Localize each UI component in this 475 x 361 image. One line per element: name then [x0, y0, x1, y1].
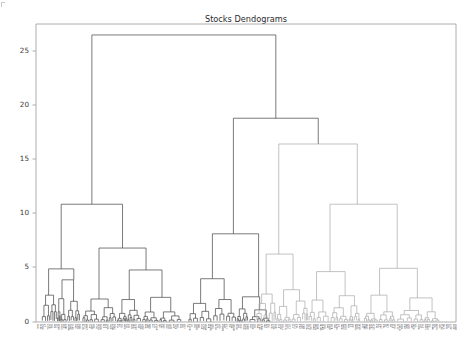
- dendrogram-link: [303, 313, 305, 320]
- dendrogram-link: [92, 35, 276, 204]
- leaf-label: AMYR: [436, 324, 438, 330]
- dendrogram-link: [219, 300, 231, 314]
- dendrogram-link: [381, 315, 386, 320]
- dendrogram-link: [52, 305, 55, 312]
- dendrogram-link: [86, 320, 88, 322]
- dendrogram-link: [333, 313, 337, 318]
- dendrogram-link: [288, 319, 290, 322]
- leaf-label: PWP: [411, 324, 413, 329]
- leaf-label: XLMI: [287, 324, 289, 329]
- dendrogram-link: [44, 305, 49, 316]
- leaf-label: ZFBD: [329, 324, 331, 330]
- y-axis-tick-labels: 0 5 10 15 20 25: [20, 46, 30, 326]
- dendrogram-link: [237, 319, 238, 322]
- dendrogram-link: [358, 319, 360, 321]
- dendrogram-link: [60, 316, 61, 321]
- leaf-label: XBKR: [142, 324, 144, 330]
- leaf-label: PBA: [257, 324, 259, 329]
- dendrogram-link: [49, 269, 74, 295]
- leaf-label: HMW: [201, 324, 203, 329]
- dendrogram-link: [194, 318, 198, 321]
- dendrogram-link: [319, 312, 326, 318]
- dendrogram-link: [266, 254, 293, 294]
- dendrogram-link: [71, 301, 78, 311]
- dendrogram-link: [379, 319, 382, 321]
- leaf-label: POG: [36, 324, 39, 329]
- leaf-label: KFV: [121, 324, 123, 329]
- dendrogram-link: [355, 313, 358, 319]
- dendrogram-link: [351, 306, 357, 317]
- dendrogram-link: [99, 248, 146, 299]
- dendrogram-link: [143, 319, 145, 321]
- dendrogram-link: [86, 311, 95, 316]
- dendrogram-link: [306, 314, 307, 321]
- dendrogram-link: [64, 320, 66, 322]
- dendrogram-link: [61, 319, 62, 321]
- dendrogram-link: [160, 320, 162, 322]
- dendrogram-link: [334, 308, 343, 316]
- leaf-label: ZKE: [392, 324, 394, 329]
- dendrogram-link: [214, 316, 217, 321]
- dendrogram-links: [42, 35, 439, 322]
- dendrogram-link: [292, 319, 295, 321]
- leaf-label: ZWZ: [404, 324, 406, 329]
- leaf-label: NIN: [378, 324, 380, 328]
- dendrogram-link: [246, 317, 248, 321]
- leaf-label: YZMZ: [135, 324, 137, 330]
- dendrogram-link: [354, 317, 356, 321]
- dendrogram-link: [274, 312, 276, 321]
- dendrogram-link: [269, 313, 272, 321]
- leaf-label: IYME: [175, 324, 177, 330]
- leaf-label: HIH: [191, 324, 193, 328]
- leaf-label: FDYN: [401, 324, 403, 330]
- dendrogram-link: [271, 303, 275, 313]
- leaf-label: EPD: [54, 324, 56, 329]
- dendrogram-link: [313, 319, 315, 321]
- dendrogram-link: [68, 316, 70, 321]
- dendrogram-link: [62, 280, 74, 301]
- leaf-label: PME: [63, 324, 65, 329]
- dendrogram-link: [145, 312, 154, 318]
- y-tick-label-10: 10: [20, 208, 30, 217]
- dendrogram-link: [380, 268, 418, 298]
- leaf-label: EIM: [352, 324, 354, 328]
- leaf-label: KEEV: [40, 324, 42, 330]
- dendrogram-figure: Stocks Dendograms 0 5 10 15 20 25: [0, 0, 475, 361]
- y-axis-ticks: [33, 51, 37, 322]
- leaf-label: ABXV: [343, 324, 345, 330]
- dendrogram-link: [233, 118, 318, 234]
- dendrogram-link: [384, 320, 387, 322]
- leaf-label: FYN: [448, 324, 450, 328]
- dendrogram-link: [344, 320, 347, 322]
- dendrogram-link: [297, 317, 300, 321]
- leaf-label: WEF: [147, 324, 149, 329]
- dendrogram-link: [410, 298, 432, 312]
- dendrogram-link: [151, 297, 171, 312]
- leaf-label: BDY: [198, 324, 200, 329]
- dendrogram-link: [284, 320, 287, 322]
- dendrogram-link: [177, 320, 181, 322]
- dendrogram-link: [339, 319, 342, 322]
- leaf-label: BXB: [208, 324, 210, 329]
- dendrogram-link: [117, 320, 119, 322]
- chart-title: Stocks Dendograms: [205, 14, 287, 24]
- leaf-label: PPWE: [58, 324, 60, 331]
- leaf-label: HWD: [303, 324, 305, 330]
- y-tick-label-0: 0: [24, 317, 29, 326]
- dendrogram-link: [331, 318, 334, 322]
- dendrogram-link: [420, 320, 423, 322]
- dendrogram-link: [62, 314, 65, 319]
- leaf-label: RXI: [152, 324, 154, 328]
- leaf-label: FDI: [434, 324, 436, 328]
- leaf-label: LEA: [238, 324, 240, 328]
- leaf-label: VFW: [371, 324, 373, 329]
- dendrogram-link: [58, 318, 59, 321]
- dendrogram-link: [309, 316, 311, 320]
- dendrogram-link: [128, 320, 129, 322]
- dendrogram-link: [284, 290, 300, 307]
- dendrogram-link: [240, 320, 242, 321]
- dendrogram-link: [54, 312, 56, 321]
- dendrogram-link: [207, 319, 211, 322]
- dendrogram-link: [109, 318, 111, 322]
- dendrogram-link: [414, 319, 417, 322]
